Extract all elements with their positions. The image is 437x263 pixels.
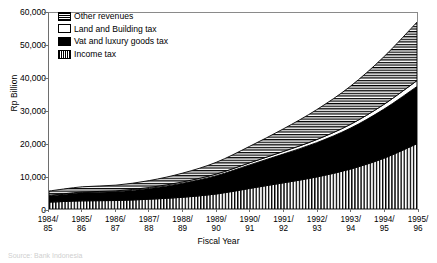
y-axis-tick-label: 0 (2, 206, 46, 215)
legend-item-other-revenues: Other revenues (58, 10, 208, 23)
legend-swatch-horizontal-hatch-icon (58, 12, 71, 21)
x-axis-tick-mark (216, 209, 217, 212)
y-axis-tick-label: 60,000 (2, 8, 46, 17)
x-axis-tick-mark (182, 209, 183, 212)
x-axis-tick-mark (418, 209, 419, 212)
legend-label: Income tax (74, 50, 116, 59)
stacked-area-chart: Rp Billion 010,00020,00030,00040,00050,0… (0, 0, 437, 263)
legend-item-land-and-building-tax: Land and Building tax (58, 23, 208, 36)
chart-legend: Other revenues Land and Building tax Vat… (58, 10, 208, 60)
x-axis-tick-mark (317, 209, 318, 212)
y-axis-tick-label: 30,000 (2, 107, 46, 116)
x-axis-tick-mark (350, 209, 351, 212)
x-axis-tick-mark (81, 209, 82, 212)
legend-swatch-black-icon (58, 37, 71, 46)
legend-label: Vat and luxury goods tax (74, 37, 168, 46)
x-axis-title: Fiscal Year (0, 236, 437, 246)
legend-label: Other revenues (74, 12, 133, 21)
x-axis-tick-mark (283, 209, 284, 212)
x-axis-tick-mark (384, 209, 385, 212)
x-axis-tick-label: 1995/96 (396, 215, 437, 234)
y-axis-tick-label: 10,000 (2, 173, 46, 182)
legend-swatch-white-icon (58, 24, 71, 33)
x-axis-tick-mark (148, 209, 149, 212)
source-note: Source: Bank Indonesia (8, 252, 82, 259)
x-axis-tick-mark (48, 209, 49, 212)
y-axis-tick-label: 50,000 (2, 41, 46, 50)
legend-swatch-vertical-hatch-icon (58, 50, 71, 59)
y-axis-tick-label: 20,000 (2, 140, 46, 149)
legend-item-income-tax: Income tax (58, 48, 208, 61)
legend-label: Land and Building tax (74, 25, 157, 34)
legend-item-vat-and-luxury-goods-tax: Vat and luxury goods tax (58, 35, 208, 48)
y-axis-tick-label: 40,000 (2, 74, 46, 83)
x-axis-ticks: 1984/851985/861986/871987/881988/891989/… (48, 212, 418, 238)
x-axis-tick-mark (115, 209, 116, 212)
x-axis-tick-mark (249, 209, 250, 212)
